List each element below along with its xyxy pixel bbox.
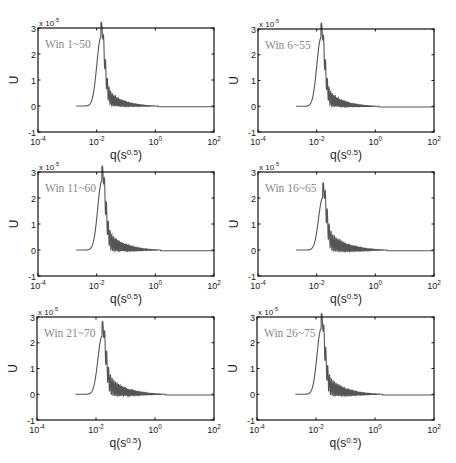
- subplot-4: -1012310-410-2100102x 10-5Uq(s0.5)Win 16…: [227, 161, 441, 306]
- y-tick-label: 3: [251, 25, 256, 35]
- x-tick-label: 102: [427, 279, 441, 291]
- x-tick-label: 10-2: [88, 423, 104, 435]
- y-tick-label: 2: [251, 194, 256, 204]
- y-tick-label: -1: [28, 272, 36, 282]
- data-line: [296, 23, 434, 107]
- x-tick-label: 10-4: [250, 279, 266, 291]
- window-label: Win 11~60: [45, 182, 96, 194]
- y-tick-label: 1: [31, 220, 36, 230]
- x-tick-label: 100: [149, 135, 163, 147]
- y-tick-label: 0: [30, 390, 35, 400]
- data-line: [295, 314, 434, 396]
- y-tick-label: -1: [247, 416, 255, 426]
- x-axis-label: q(s0.5): [110, 436, 142, 450]
- y-multiplier: x 10-5: [258, 306, 278, 317]
- data-line: [76, 22, 214, 106]
- y-tick-label: 2: [31, 194, 36, 204]
- y-axis-label: U: [7, 76, 21, 85]
- subplot-1: -1012310-410-2100102x 10-5Uq(s0.5)Win 1~…: [7, 17, 221, 162]
- y-tick-label: 0: [31, 102, 36, 112]
- subplot-3: -1012310-410-2100102x 10-5Uq(s0.5)Win 11…: [7, 161, 221, 306]
- x-tick-label: 100: [149, 279, 163, 291]
- y-tick-label: 0: [250, 390, 255, 400]
- y-tick-label: 2: [251, 50, 256, 60]
- x-axis-label: q(s0.5): [110, 292, 142, 306]
- x-tick-label: 10-4: [30, 135, 46, 147]
- y-axis-label: U: [7, 220, 21, 229]
- x-tick-label: 10-2: [309, 279, 325, 291]
- x-tick-label: 102: [207, 135, 221, 147]
- y-tick-label: 2: [250, 338, 255, 348]
- y-axis-label: U: [227, 220, 241, 229]
- y-tick-label: 1: [30, 364, 35, 374]
- x-tick-label: 10-4: [30, 279, 46, 291]
- window-label: Win 26~75: [264, 327, 316, 339]
- y-axis-label: U: [226, 364, 240, 373]
- y-multiplier: x 10-5: [39, 161, 59, 172]
- x-tick-label: 100: [369, 279, 383, 291]
- x-tick-label: 10-2: [308, 423, 324, 435]
- x-tick-label: 102: [427, 423, 441, 435]
- x-tick-label: 100: [369, 135, 383, 147]
- x-tick-label: 100: [148, 423, 162, 435]
- y-tick-label: 3: [251, 168, 256, 178]
- figure-svg: -1012310-410-2100102x 10-5Uq(s0.5)Win 1~…: [0, 0, 456, 463]
- x-tick-label: 100: [368, 423, 382, 435]
- x-axis-label: q(s0.5): [330, 148, 362, 162]
- y-tick-label: 3: [31, 24, 36, 34]
- y-tick-label: 1: [250, 364, 255, 374]
- y-multiplier: x 10-5: [259, 18, 279, 29]
- window-label: Win 16~65: [265, 182, 317, 194]
- y-tick-label: 3: [31, 168, 36, 178]
- y-tick-label: 2: [30, 338, 35, 348]
- x-tick-label: 10-2: [89, 135, 105, 147]
- data-line: [296, 183, 434, 252]
- y-axis-label: U: [227, 76, 241, 85]
- x-tick-label: 10-4: [250, 135, 266, 147]
- y-multiplier: x 10-5: [259, 161, 279, 172]
- y-tick-label: -1: [27, 416, 35, 426]
- y-axis-label: U: [6, 364, 20, 373]
- y-tick-label: 1: [251, 220, 256, 230]
- y-tick-label: 0: [251, 102, 256, 112]
- subplot-5: -1012310-410-2100102x 10-5Uq(s0.5)Win 21…: [6, 306, 221, 450]
- window-label: Win 6~55: [265, 39, 311, 51]
- y-tick-label: 3: [250, 313, 255, 323]
- x-tick-label: 10-2: [309, 135, 325, 147]
- window-label: Win 21~70: [44, 327, 96, 339]
- x-axis-label: q(s0.5): [330, 436, 362, 450]
- x-tick-label: 10-2: [89, 279, 105, 291]
- window-label: Win 1~50: [45, 38, 91, 50]
- y-tick-label: 0: [251, 246, 256, 256]
- x-axis-label: q(s0.5): [110, 148, 142, 162]
- x-tick-label: 102: [207, 423, 221, 435]
- y-tick-label: -1: [28, 128, 36, 138]
- x-tick-label: 10-4: [29, 423, 45, 435]
- x-tick-label: 10-4: [249, 423, 265, 435]
- x-tick-label: 102: [427, 135, 441, 147]
- y-multiplier: x 10-5: [39, 17, 59, 28]
- y-tick-label: 3: [30, 313, 35, 323]
- y-tick-label: -1: [248, 272, 256, 282]
- y-tick-label: 1: [251, 76, 256, 86]
- subplot-6: -1012310-410-2100102x 10-5Uq(s0.5)Win 26…: [226, 306, 441, 450]
- data-line: [76, 166, 214, 251]
- x-axis-label: q(s0.5): [330, 292, 362, 306]
- y-tick-label: 1: [31, 76, 36, 86]
- y-tick-label: -1: [248, 128, 256, 138]
- data-line: [75, 321, 214, 396]
- y-multiplier: x 10-5: [38, 306, 58, 317]
- x-tick-label: 102: [207, 279, 221, 291]
- y-tick-label: 0: [31, 246, 36, 256]
- subplot-2: -1012310-410-2100102x 10-5Uq(s0.5)Win 6~…: [227, 18, 441, 162]
- y-tick-label: 2: [31, 50, 36, 60]
